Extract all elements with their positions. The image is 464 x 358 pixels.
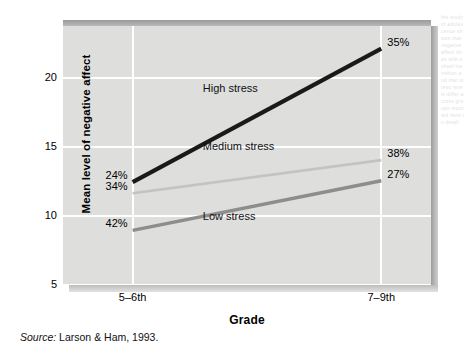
y-tick-10: 10 bbox=[13, 209, 57, 221]
end-percent-medium-stress: 38% bbox=[387, 147, 429, 159]
source-note: Source: Larson & Ham, 1993. bbox=[20, 331, 158, 343]
series-lines bbox=[63, 32, 431, 285]
x-tick-0: 5–6th bbox=[88, 291, 178, 303]
series-label-medium-stress: Medium stress bbox=[203, 140, 275, 152]
y-tick-15: 15 bbox=[13, 140, 57, 152]
series-label-high-stress: High stress bbox=[203, 82, 258, 94]
end-percent-high-stress: 35% bbox=[387, 36, 429, 48]
start-percent-low-stress: 42% bbox=[86, 217, 128, 229]
y-axis-title: Mean level of negative affect bbox=[80, 29, 92, 239]
page-text-bleed: the study of adolescence shows that nega… bbox=[441, 14, 464, 314]
plot-area bbox=[63, 26, 431, 285]
y-tick-20: 20 bbox=[13, 71, 57, 83]
figure-container: the study of adolescence shows that nega… bbox=[0, 0, 464, 358]
x-axis-title: Grade bbox=[63, 313, 431, 327]
end-percent-low-stress: 27% bbox=[387, 168, 429, 180]
y-tick-5: 5 bbox=[13, 278, 57, 290]
start-percent-medium-stress: 34% bbox=[86, 180, 128, 192]
source-note-prefix: Source: bbox=[20, 331, 56, 343]
series-line-high-stress bbox=[133, 49, 382, 183]
series-label-low-stress: Low stress bbox=[203, 210, 256, 222]
x-tick-1: 7–9th bbox=[336, 291, 426, 303]
source-note-text: Larson & Ham, 1993. bbox=[59, 331, 158, 343]
plot-plate: Mean level of negative affect 5101520 bbox=[63, 20, 431, 285]
plate-shadow-right bbox=[431, 26, 438, 291]
